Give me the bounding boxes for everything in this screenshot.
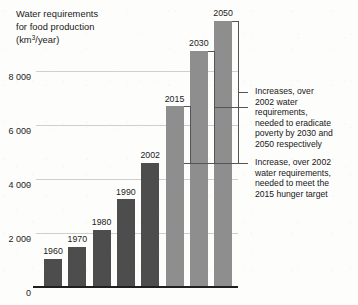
annotation-increase-2015: Increase, over 2002 water requirements, … <box>255 157 357 199</box>
bar-2030 <box>190 51 208 287</box>
bar-1980 <box>93 230 111 287</box>
bar-1970 <box>68 247 86 288</box>
annotation-increases-2030-2050: Increases, over 2002 water requirements,… <box>255 86 355 150</box>
y-tick-mark-4000 <box>26 185 31 186</box>
bar-label-1960: 1960 <box>43 246 63 256</box>
bar-label-2030: 2030 <box>189 38 209 48</box>
y-tick-mark-2000 <box>26 239 31 240</box>
bar-label-1980: 1980 <box>92 217 112 227</box>
bar-2002 <box>141 163 159 287</box>
leader-2050-to-annotation <box>238 92 248 93</box>
y-tick-mark-6000 <box>26 131 31 132</box>
bar-1990 <box>117 199 135 287</box>
plot-area: 19601970198019902002201520302050 <box>36 6 238 288</box>
leader-2015-to-annotation <box>190 163 249 164</box>
bar-label-1990: 1990 <box>116 187 136 197</box>
bar-label-2050: 2050 <box>213 8 233 18</box>
bracket-tip-top-2030 <box>208 51 215 52</box>
water-requirements-bar-chart: Water requirements for food production (… <box>0 0 358 305</box>
bar-2015 <box>166 106 184 287</box>
x-axis-baseline <box>33 286 238 288</box>
bracket-tip-top-2050 <box>232 21 239 22</box>
y-tick-label-0: 0 <box>26 288 31 298</box>
y-axis: 02 0004 0006 0008 000 <box>0 6 31 288</box>
leader-2030-to-annotation <box>214 107 248 108</box>
bar-label-2002: 2002 <box>140 150 160 160</box>
bracket-tip-top-2015 <box>184 106 191 107</box>
bar-1960 <box>44 259 62 287</box>
bar-label-1970: 1970 <box>68 234 88 244</box>
bar-label-2015: 2015 <box>165 94 185 104</box>
bar-2050 <box>214 21 232 287</box>
bracket-stem-2015 <box>190 106 191 163</box>
y-tick-mark-8000 <box>26 77 31 78</box>
